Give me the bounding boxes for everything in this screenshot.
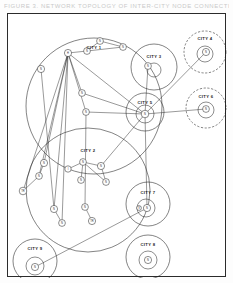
figure-frame: HNNNNNNNNNNNNTRINNNNNNNTRNVNN CITY 1CITY… xyxy=(7,13,226,277)
city-boundary-city2[interactable] xyxy=(26,128,150,252)
node-n3[interactable]: N xyxy=(97,38,104,45)
city-label-city1: CITY 1 xyxy=(86,45,101,50)
node-n6[interactable]: N xyxy=(79,90,86,97)
edge-n1-n14 xyxy=(23,53,68,191)
node-label-n14: TR xyxy=(21,189,25,193)
edge-n1-n7 xyxy=(68,53,86,112)
city-label-city3: CITY 3 xyxy=(146,54,161,59)
node-label-n13: N xyxy=(38,174,40,178)
edge-n6-n10 xyxy=(82,93,145,114)
node-label-n26: N xyxy=(147,258,149,262)
node-label-n10: N xyxy=(144,112,146,116)
node-n8[interactable]: N xyxy=(145,63,152,70)
node-n7[interactable]: N xyxy=(83,109,90,116)
node-label-n21: N xyxy=(61,221,63,225)
city-label-city4: CITY 4 xyxy=(197,36,212,41)
city-label-layer: CITY 1CITY 2CITY 3CITY 4CITY 5CITY 6CITY… xyxy=(27,36,213,251)
node-n1[interactable]: H xyxy=(64,49,71,56)
node-label-n27: N xyxy=(34,265,36,269)
city-label-city9: CITY 9 xyxy=(27,246,42,251)
node-n25[interactable]: V xyxy=(137,206,142,211)
node-n24[interactable]: N xyxy=(143,204,150,211)
city-boundary-city7[interactable] xyxy=(126,182,170,226)
node-n16[interactable]: N xyxy=(80,159,87,166)
edge-layer xyxy=(23,41,206,267)
figure-page: FIGURE 3. NETWORK TOPOLOGY OF INTER-CITY… xyxy=(0,0,233,283)
node-label-n18: N xyxy=(100,164,102,168)
edge-n1-n20 xyxy=(54,53,68,209)
node-label-n22: N xyxy=(84,205,86,209)
node-label-n8: N xyxy=(147,64,149,68)
edge-n1-n21 xyxy=(62,53,68,223)
node-n4[interactable]: N xyxy=(120,44,127,51)
node-layer: HNNNNNNNNNNNNTRINNNNNNNTRNVNN xyxy=(19,38,209,271)
node-label-n16: N xyxy=(82,160,84,164)
node-n13[interactable]: N xyxy=(36,173,43,180)
figure-caption: FIGURE 3. NETWORK TOPOLOGY OF INTER-CITY… xyxy=(4,1,229,12)
node-n23[interactable]: TR xyxy=(88,217,95,224)
node-label-n6: N xyxy=(81,91,83,95)
node-label-n3: N xyxy=(99,39,101,43)
city-label-city7: CITY 7 xyxy=(140,190,155,195)
node-label-n23: TR xyxy=(90,219,94,223)
node-label-n20: N xyxy=(53,207,55,211)
city-label-city5: CITY 5 xyxy=(137,100,152,105)
node-n20[interactable]: N xyxy=(50,205,57,212)
node-label-n4: N xyxy=(122,45,124,49)
node-label-n24: N xyxy=(146,206,148,210)
node-n18[interactable]: N xyxy=(97,162,104,169)
node-n15[interactable]: I xyxy=(65,166,71,172)
city-label-city6: CITY 6 xyxy=(198,94,213,99)
node-label-n1: H xyxy=(67,51,69,55)
node-label-n19: N xyxy=(105,180,107,184)
node-label-n17: N xyxy=(80,178,82,182)
node-n19[interactable]: N xyxy=(103,179,110,186)
city-boundary-city1[interactable] xyxy=(26,38,162,174)
edge-n5-n20 xyxy=(41,69,54,209)
node-label-n25: V xyxy=(138,206,140,210)
network-diagram: HNNNNNNNNNNNNTRINNNNNNNTRNVNN CITY 1CITY… xyxy=(8,14,227,278)
edge-n10-n18 xyxy=(101,114,145,166)
node-n26[interactable]: N xyxy=(144,256,151,263)
city-boundary-city3[interactable] xyxy=(131,44,177,90)
city-label-city2: CITY 2 xyxy=(80,148,95,153)
node-n17[interactable]: N xyxy=(78,177,85,184)
node-n11[interactable]: N xyxy=(203,106,210,113)
node-n21[interactable]: N xyxy=(59,220,66,227)
city-layer xyxy=(13,31,226,278)
city-boundary-city9[interactable] xyxy=(13,239,57,278)
edge-n1-n12 xyxy=(44,53,68,163)
node-label-n5: N xyxy=(40,67,42,71)
node-n22[interactable]: N xyxy=(82,204,89,211)
node-label-n9: N xyxy=(205,50,207,54)
city-label-city8: CITY 8 xyxy=(140,242,155,247)
node-n10[interactable]: N xyxy=(141,110,149,118)
node-n12[interactable]: N xyxy=(40,159,47,166)
node-n27[interactable]: N xyxy=(31,263,38,270)
node-n5[interactable]: N xyxy=(37,65,44,72)
inner-ring-layer xyxy=(26,46,214,275)
edge-n1-n10 xyxy=(68,53,145,114)
node-n14[interactable]: TR xyxy=(19,187,27,195)
node-label-n7: N xyxy=(85,110,87,114)
node-n9[interactable]: N xyxy=(202,48,209,55)
node-label-n12: N xyxy=(43,161,45,165)
node-label-n11: N xyxy=(205,107,207,111)
edge-n9-n10 xyxy=(145,52,206,114)
edge-n1-n6 xyxy=(68,53,82,93)
